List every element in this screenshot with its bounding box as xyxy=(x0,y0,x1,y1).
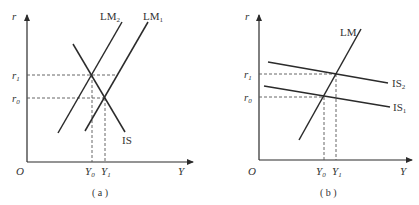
panel-a-caption: ( a ) xyxy=(92,187,108,199)
r0-label: r0 xyxy=(12,92,20,106)
lm-left-curve xyxy=(58,22,122,133)
y0-label: Y0 xyxy=(316,165,326,179)
y1-label: Y1 xyxy=(101,165,111,179)
r-axis-label: r xyxy=(12,10,17,22)
r1-label: r1 xyxy=(244,68,252,82)
r-axis-label: r xyxy=(245,10,250,22)
is2-label: IS2 xyxy=(392,77,406,91)
lm-curve xyxy=(299,29,361,140)
lm-left-label: LM2 xyxy=(100,10,121,24)
lm-right-label: LM1 xyxy=(143,10,164,24)
is-lm-diagram: r Y O r1 r0 Y0 Y1 LM2 LM1 IS ( a ) r Y O… xyxy=(0,0,419,205)
origin-label: O xyxy=(16,165,24,177)
panel-b: r Y O r1 r0 Y0 Y1 LM IS2 IS1 ( b ) xyxy=(244,10,412,199)
panel-b-caption: ( b ) xyxy=(320,187,337,199)
is2-curve xyxy=(268,62,388,83)
y1-label: Y1 xyxy=(332,165,342,179)
r1-label: r1 xyxy=(12,69,20,83)
y-axis-label: Y xyxy=(400,165,408,177)
origin-label: O xyxy=(248,165,256,177)
is-curve xyxy=(73,44,125,132)
r0-label: r0 xyxy=(244,91,252,105)
y-axis-label: Y xyxy=(178,165,186,177)
y0-label: Y0 xyxy=(85,165,95,179)
lm-right-curve xyxy=(85,22,148,131)
is-label: IS xyxy=(122,134,132,146)
panel-a: r Y O r1 r0 Y0 Y1 LM2 LM1 IS ( a ) xyxy=(12,10,193,199)
lm-label: LM xyxy=(340,26,357,38)
is1-label: IS1 xyxy=(393,101,407,115)
